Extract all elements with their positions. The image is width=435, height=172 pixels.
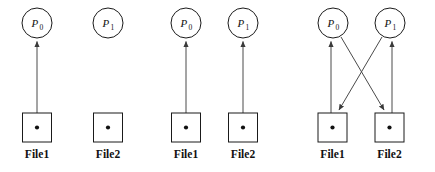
file-descriptor-dot (184, 125, 188, 129)
process-label: P (384, 17, 392, 29)
panel-2: P 0 P 1 File1 File2 (171, 8, 258, 160)
process-node-p0: P 0 (22, 8, 52, 38)
process-label: P (180, 17, 188, 29)
file-descriptor-dot (106, 125, 110, 129)
process-subscript: 0 (189, 23, 193, 32)
file-descriptor-dot (241, 125, 245, 129)
file-node-file2: File2 (94, 113, 123, 160)
file-descriptor-dot (35, 125, 39, 129)
process-node-p0: P 0 (318, 8, 348, 38)
process-node-p1: P 1 (93, 8, 123, 38)
process-subscript: 0 (40, 23, 44, 32)
process-label: P (102, 17, 110, 29)
file-label: File1 (320, 148, 345, 160)
edge-p0-to-file2 (341, 37, 384, 110)
file-label: File2 (231, 148, 256, 160)
file-node-file2: File2 (375, 113, 404, 160)
process-node-p0: P 0 (171, 8, 201, 38)
panel-1: P 0 P 1 File1 File2 (22, 8, 123, 160)
process-node-p1: P 1 (228, 8, 258, 38)
panel-3: P 0 P 1 File1 F (318, 8, 405, 160)
file-node-file1: File1 (23, 113, 52, 160)
file-node-file1: File1 (318, 113, 347, 160)
process-subscript: 1 (393, 23, 397, 32)
process-subscript: 1 (111, 23, 115, 32)
process-label: P (237, 17, 245, 29)
file-node-file1: File1 (172, 113, 201, 160)
file-label: File1 (174, 148, 199, 160)
file-label: File1 (25, 148, 50, 160)
file-label: File2 (377, 148, 402, 160)
file-label: File2 (96, 148, 121, 160)
file-node-file2: File2 (229, 113, 258, 160)
edge-p1-to-file1 (339, 37, 382, 110)
file-descriptor-dot (330, 125, 334, 129)
process-file-diagram: P 0 P 1 File1 File2 (0, 0, 435, 172)
process-subscript: 1 (246, 23, 250, 32)
file-descriptor-dot (387, 125, 391, 129)
process-label: P (327, 17, 335, 29)
process-node-p1: P 1 (375, 8, 405, 38)
process-subscript: 0 (336, 23, 340, 32)
process-label: P (31, 17, 39, 29)
